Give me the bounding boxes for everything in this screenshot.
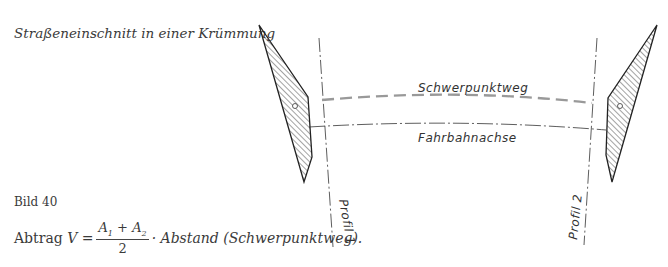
road-axis-line [309, 123, 606, 130]
profile-2-line [584, 38, 597, 245]
right-centroid-marker [618, 104, 623, 109]
road-axis-label: Fahrbahnachse [418, 131, 517, 145]
right-cross-section [606, 25, 657, 182]
profile-1-label: Profil 1 [336, 198, 358, 246]
profile-1-line [319, 38, 333, 247]
centroid-path-line [322, 95, 592, 103]
left-centroid-marker [293, 104, 298, 109]
road-cut-diagram: Schwerpunktweg Fahrbahnachse Profil 1 Pr… [0, 0, 668, 267]
centroid-path-label: Schwerpunktweg [418, 81, 528, 95]
profile-2-label: Profil 2 [566, 193, 585, 240]
left-cross-section [259, 25, 312, 182]
